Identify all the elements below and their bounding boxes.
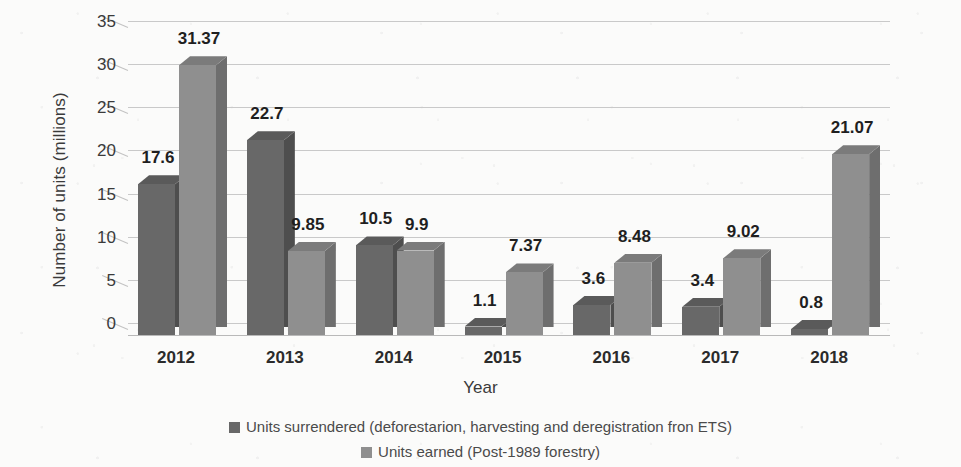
bar-group: 10.59.9 [346,34,455,336]
gridline [128,21,890,22]
bar-side-face [434,242,445,327]
bar-value-label: 9.02 [727,222,760,242]
y-tick-label: 10 [97,228,116,248]
bar-front-face [614,263,651,336]
bar-front-face [723,258,760,336]
y-tick-label: 35 [97,12,116,32]
chart-legend: Units surrendered (deforestarion, harves… [0,414,961,464]
bar-front-face [138,184,175,336]
y-tick-label: 20 [97,141,116,161]
bar [723,258,760,336]
bar-value-label: 3.6 [582,269,606,289]
legend-swatch-icon [229,422,240,433]
bar-front-face [573,305,610,336]
bar-front-face [247,140,284,336]
bar [832,154,869,336]
bar-value-label: 0.8 [799,293,823,313]
bar [138,184,175,336]
bar-value-label: 9.85 [291,215,324,235]
bar-value-label: 7.37 [509,236,542,256]
legend-label: Units earned (Post-1989 forestry) [378,443,600,460]
bar [179,65,216,336]
legend-swatch-icon [361,447,372,458]
bar-value-label: 8.48 [618,227,651,247]
bar-side-face [760,249,771,327]
x-tick-label: 2015 [484,348,522,368]
bar [288,251,325,336]
bar-group: 22.79.85 [237,34,346,336]
bar-side-face [325,242,336,327]
y-tick-label: 5 [107,271,116,291]
x-tick-label: 2017 [701,348,739,368]
bar-value-label: 1.1 [473,291,497,311]
legend-item[interactable]: Units earned (Post-1989 forestry) [0,439,961,464]
x-tick-label: 2012 [157,348,195,368]
x-tick-label: 2014 [375,348,413,368]
bar-value-label: 9.9 [405,215,429,235]
bar-value-label: 31.37 [178,29,221,49]
x-axis-line [128,335,890,336]
bar-value-label: 17.6 [141,148,174,168]
y-tick-label: 15 [97,185,116,205]
bar-value-label: 3.4 [690,271,714,291]
bar [682,307,719,336]
bar [397,251,434,336]
plot-area: 05101520253035 17.631.3722.79.8510.59.91… [128,34,890,336]
bar-value-label: 22.7 [250,104,283,124]
bar-value-label: 21.07 [831,118,874,138]
y-tick-label: 25 [97,98,116,118]
bar-front-face [506,272,543,336]
bar-group: 3.49.02 [672,34,781,336]
bar-front-face [288,251,325,336]
x-axis-title: Year [0,378,961,398]
bar-side-face [543,263,554,327]
bar-value-label: 10.5 [359,209,392,229]
bar-front-face [356,245,393,336]
bar [614,263,651,336]
x-tick-label: 2013 [266,348,304,368]
y-tick-label: 30 [97,55,116,75]
bar-front-face [682,307,719,336]
bar [573,305,610,336]
bar-side-face [651,254,662,327]
chart-page: Number of units (millions) 0510152025303… [0,0,961,467]
bar-front-face [179,65,216,336]
legend-item[interactable]: Units surrendered (deforestarion, harves… [0,414,961,439]
y-axis-title: Number of units (millions) [50,40,70,340]
bar-side-face [869,145,880,327]
x-tick-label: 2016 [593,348,631,368]
bar [506,272,543,336]
bar [356,245,393,336]
x-tick-label: 2018 [810,348,848,368]
y-tick-label: 0 [107,314,116,334]
bar-group: 3.68.48 [563,34,672,336]
bar [247,140,284,336]
bar-group: 1.17.37 [455,34,564,336]
bar-front-face [832,154,869,336]
bar-group: 17.631.37 [128,34,237,336]
bar-group: 0.821.07 [781,34,890,336]
bar-front-face [397,251,434,336]
legend-label: Units surrendered (deforestarion, harves… [246,418,732,435]
bar-side-face [216,56,227,327]
